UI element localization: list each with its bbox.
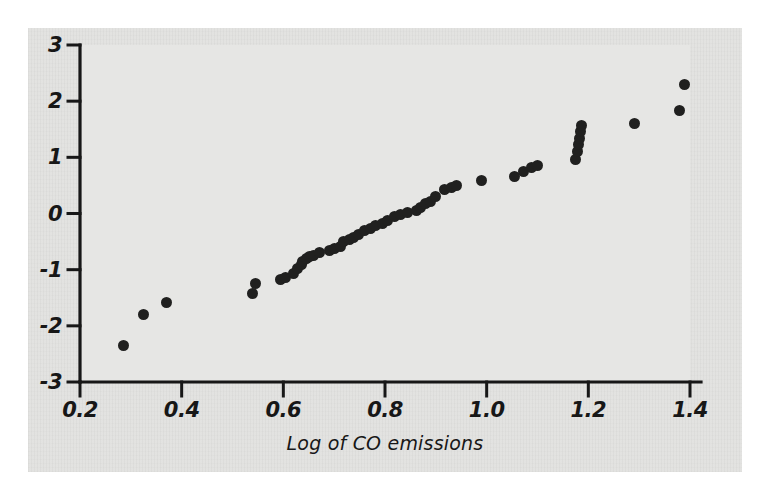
data-point [674, 105, 685, 116]
data-point [629, 118, 640, 129]
scatter-plot-figure: 3210-1-2-3 0.20.40.60.81.01.21.4 Log of … [0, 0, 771, 498]
x-tick-label: 1.0 [469, 398, 505, 422]
y-tick-label: 0 [20, 202, 62, 226]
data-point [118, 340, 129, 351]
y-tick-label: 1 [20, 145, 62, 169]
x-tick-label: 0.2 [62, 398, 98, 422]
data-point [250, 278, 261, 289]
y-tick-label: 3 [20, 33, 62, 57]
data-point [451, 180, 462, 191]
data-point [532, 160, 543, 171]
axes-lines [0, 0, 771, 498]
y-tick-label: -2 [20, 314, 62, 338]
y-tick-label: 2 [20, 89, 62, 113]
x-axis-title: Log of CO emissions [287, 432, 484, 454]
x-tick-label: 1.4 [672, 398, 708, 422]
x-tick-label: 1.2 [570, 398, 606, 422]
data-point [161, 297, 172, 308]
x-tick-label: 0.6 [265, 398, 301, 422]
x-tick-label: 0.8 [367, 398, 403, 422]
y-tick-label: -3 [20, 370, 62, 394]
x-tick-label: 0.4 [164, 398, 200, 422]
y-tick-label: -1 [20, 258, 62, 282]
